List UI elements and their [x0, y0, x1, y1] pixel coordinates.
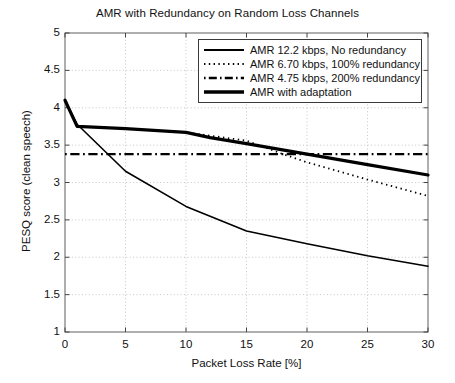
chart-title: AMR with Redundancy on Random Loss Chann… — [0, 7, 455, 19]
y-tick-label: 1.5 — [20, 288, 60, 300]
y-tick-label: 3 — [20, 176, 60, 188]
legend-swatch-dotted — [203, 57, 245, 71]
legend-item: AMR 4.75 kbps, 200% redundancy — [203, 71, 416, 85]
x-tick-label: 5 — [106, 338, 146, 350]
y-tick-label: 1 — [20, 325, 60, 337]
legend-label: AMR 4.75 kbps, 200% redundancy — [250, 72, 420, 84]
y-tick-label: 3.5 — [20, 138, 60, 150]
chart-figure: AMR with Redundancy on Random Loss Chann… — [0, 0, 455, 383]
y-tick-label: 2.5 — [20, 213, 60, 225]
legend-item: AMR 12.2 kbps, No redundancy — [203, 43, 416, 57]
legend-label: AMR with adaptation — [250, 86, 352, 98]
x-tick-label: 20 — [287, 338, 327, 350]
x-axis-label: Packet Loss Rate [%] — [65, 357, 428, 369]
x-tick-label: 15 — [227, 338, 267, 350]
legend-label: AMR 6.70 kbps, 100% redundancy — [250, 58, 420, 70]
y-axis-tick-labels: 11.522.533.544.55 — [18, 0, 60, 383]
x-tick-label: 0 — [45, 338, 85, 350]
legend-item: AMR 6.70 kbps, 100% redundancy — [203, 57, 416, 71]
legend-swatch-solid-thin — [203, 43, 245, 57]
chart-legend: AMR 12.2 kbps, No redundancy AMR 6.70 kb… — [198, 39, 422, 103]
x-axis-tick-labels: 051015202530 — [0, 338, 455, 358]
legend-label: AMR 12.2 kbps, No redundancy — [250, 44, 406, 56]
legend-swatch-solid-thick — [203, 85, 245, 99]
legend-item: AMR with adaptation — [203, 85, 416, 99]
y-tick-label: 5 — [20, 26, 60, 38]
x-tick-label: 10 — [166, 338, 206, 350]
y-tick-label: 4.5 — [20, 63, 60, 75]
x-tick-label: 25 — [348, 338, 388, 350]
y-tick-label: 2 — [20, 250, 60, 262]
legend-swatch-dashdot — [203, 71, 245, 85]
x-tick-label: 30 — [408, 338, 448, 350]
y-tick-label: 4 — [20, 101, 60, 113]
